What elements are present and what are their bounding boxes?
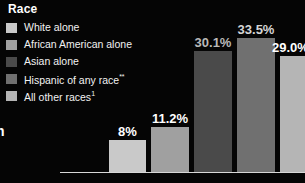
bar-white-alone[interactable]: [109, 140, 146, 172]
bar-group-hispanic-any-race: 33.5%: [237, 38, 275, 172]
bar-african-american-alone[interactable]: [151, 127, 189, 172]
bar-asian-alone[interactable]: [194, 51, 232, 172]
bar-group-all-other-races: 29.0%: [280, 56, 305, 172]
bar-chart: Race White alone African American alone …: [0, 0, 305, 183]
bar-all-other-races[interactable]: [280, 56, 305, 172]
bar-value-white-alone: 8%: [109, 125, 146, 139]
bar-value-hispanic-any-race: 33.5%: [237, 23, 275, 37]
bar-hispanic-any-race[interactable]: [237, 38, 275, 172]
bar-group-asian-alone: 30.1%: [194, 51, 232, 172]
x-axis-line: [60, 172, 305, 173]
bar-group-african-american-alone: 11.2%: [151, 127, 189, 172]
plot-area: 8% 11.2% 30.1% 33.5% 29.0%: [0, 0, 305, 183]
bar-group-white-alone: 8%: [109, 140, 146, 172]
bar-value-all-other-races: 29.0%: [272, 41, 305, 55]
bar-value-asian-alone: 30.1%: [194, 36, 232, 50]
bar-value-african-american-alone: 11.2%: [151, 112, 189, 126]
